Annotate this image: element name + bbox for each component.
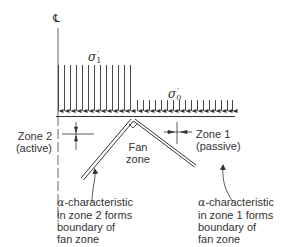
sigma1-label: σ1′ xyxy=(88,49,99,65)
left-annotation: α-characteristic in zone 2 forms boundar… xyxy=(57,196,133,245)
zone1-stress-cross xyxy=(164,122,192,144)
right-angle-marker xyxy=(129,124,137,128)
sigma0-load-arrows xyxy=(138,100,233,111)
fan-zone-label: Fan zone xyxy=(120,141,156,165)
sigma1-load-arrows xyxy=(59,65,131,111)
zone2-stress-cross xyxy=(62,122,94,150)
centerline-symbol: ℄ xyxy=(53,12,60,25)
zone1-label: Zone 1 (passive) xyxy=(196,128,241,152)
sigma0-label: σ0′ xyxy=(168,86,179,102)
right-annotation: α-characteristic in zone 1 forms boundar… xyxy=(198,196,274,245)
zone2-label: Zone 2 (active) xyxy=(2,130,52,154)
